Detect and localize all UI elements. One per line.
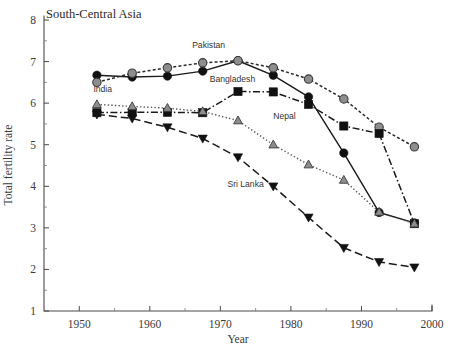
x-tick-labels: 195019601970198019902000	[68, 318, 444, 330]
series-sri-lanka	[92, 111, 419, 272]
data-point-marker	[269, 64, 277, 72]
x-tick-label: 2000	[421, 318, 444, 330]
data-point-marker	[199, 59, 207, 67]
data-point-marker	[304, 93, 312, 101]
series-bangladesh	[93, 57, 419, 228]
x-tick-label: 1970	[209, 318, 232, 330]
x-tick-label: 1950	[68, 318, 91, 330]
data-series-group	[92, 57, 419, 272]
data-point-marker	[340, 149, 348, 157]
y-tick-labels: 12345678	[30, 14, 36, 317]
data-point-marker	[163, 64, 171, 72]
y-tick-label: 1	[30, 305, 36, 317]
y-tick-label: 7	[30, 56, 36, 68]
data-point-marker	[340, 95, 348, 103]
y-tick-label: 3	[30, 222, 36, 234]
series-label-nepal: Nepal	[273, 111, 296, 121]
data-point-marker	[234, 57, 242, 65]
data-point-marker	[304, 75, 312, 83]
data-point-marker	[304, 100, 312, 108]
series-line	[97, 92, 414, 224]
data-point-marker	[163, 104, 172, 112]
series-label-bangladesh: Bangladesh	[210, 74, 256, 84]
data-point-marker	[340, 122, 348, 130]
y-tick-label: 6	[30, 97, 36, 109]
data-point-marker	[163, 72, 171, 80]
data-point-marker	[339, 175, 348, 183]
data-point-marker	[269, 140, 278, 148]
x-axis-title: Year	[227, 333, 248, 345]
series-label-sri-lanka: Sri Lanka	[227, 179, 264, 189]
chart-title: South-Central Asia	[46, 7, 142, 21]
y-tick-label: 5	[30, 139, 36, 151]
data-point-marker	[199, 67, 207, 75]
fertility-rate-chart: 12345678 195019601970198019902000 South-…	[0, 0, 464, 351]
y-tick-label: 4	[30, 180, 36, 192]
series-nepal	[93, 87, 419, 227]
y-axis-title: Total fertility rate	[2, 125, 15, 206]
data-point-marker	[234, 116, 243, 124]
data-point-marker	[198, 135, 207, 143]
data-point-marker	[128, 102, 137, 110]
series-label-india: India	[93, 84, 112, 94]
data-point-marker	[233, 154, 242, 162]
series-india	[93, 100, 419, 227]
data-point-marker	[410, 143, 418, 151]
data-point-marker	[269, 88, 277, 96]
data-point-marker	[128, 69, 136, 77]
data-point-marker	[304, 160, 313, 168]
data-point-marker	[375, 129, 383, 137]
series-annotations: BangladeshPakistanNepalIndiaSri Lanka	[93, 40, 295, 189]
data-point-marker	[93, 100, 102, 108]
series-pakistan	[93, 57, 419, 151]
data-point-marker	[410, 264, 419, 272]
y-tick-label: 8	[30, 14, 36, 26]
y-tick-label: 2	[30, 263, 36, 275]
x-tick-label: 1960	[138, 318, 161, 330]
chart-canvas: 12345678 195019601970198019902000 South-…	[0, 0, 464, 351]
x-tick-label: 1990	[350, 318, 373, 330]
series-label-pakistan: Pakistan	[192, 40, 225, 50]
x-tick-label: 1980	[279, 318, 302, 330]
series-line	[97, 61, 414, 147]
data-point-marker	[234, 87, 242, 95]
series-line	[97, 61, 414, 223]
